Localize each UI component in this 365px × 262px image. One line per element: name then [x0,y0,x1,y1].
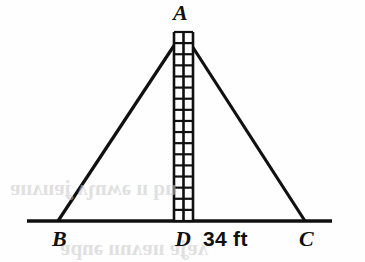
triangle-ladder-diagram [0,0,365,262]
vertex-label-a: A [173,2,188,24]
vertex-label-d: D [175,228,191,250]
geometry-figure: uq ıı ǝʍnʅʌ ʝɐııʌııɐ ʌɐʝɐ ııɐʌnıı ǝnpɐ A… [0,0,365,262]
vertex-label-c: C [299,228,314,250]
vertex-label-b: B [52,228,67,250]
triangle-side-ab [58,32,183,221]
ladder-shape [174,32,193,221]
measurement-label: 34 ft [203,228,248,249]
triangle-side-ac [183,32,305,221]
